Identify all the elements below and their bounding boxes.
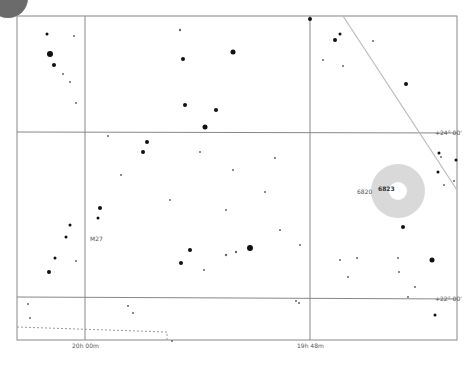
- star: [69, 81, 71, 83]
- star: [397, 257, 399, 259]
- star: [339, 259, 341, 261]
- object-label-6820[interactable]: 6820: [357, 188, 372, 195]
- star: [407, 296, 409, 298]
- star: [438, 152, 441, 155]
- ra-label-20h00m: 20h 00m: [72, 342, 99, 349]
- star: [264, 191, 266, 193]
- star: [97, 217, 100, 220]
- star: [225, 209, 227, 211]
- star: [46, 33, 49, 36]
- star: [437, 171, 440, 174]
- star: [65, 236, 68, 239]
- star: [120, 174, 122, 176]
- star: [132, 312, 134, 314]
- star: [279, 229, 281, 231]
- star: [203, 269, 205, 271]
- star: [171, 340, 173, 342]
- star: [47, 270, 51, 274]
- star: [372, 40, 374, 42]
- star: [298, 302, 300, 304]
- star: [434, 314, 437, 317]
- star: [54, 257, 57, 260]
- star: [274, 157, 276, 159]
- star: [183, 103, 187, 107]
- star: [27, 303, 29, 305]
- ra-label-19h48m: 19h 48m: [297, 342, 324, 349]
- dec-grid-line-22: [17, 297, 457, 299]
- star: [247, 245, 253, 251]
- star: [107, 135, 109, 137]
- star: [73, 35, 75, 37]
- star: [188, 248, 192, 252]
- dashed-boundary: [17, 327, 167, 340]
- star: [455, 159, 458, 162]
- star: [333, 38, 337, 42]
- constellation-boundary: [343, 16, 457, 190]
- star: [214, 108, 218, 112]
- star: [356, 257, 358, 259]
- star: [98, 206, 102, 210]
- star: [347, 276, 349, 278]
- star: [225, 254, 227, 256]
- star: [75, 260, 77, 262]
- star: [440, 156, 442, 158]
- star: [295, 300, 297, 302]
- star: [169, 199, 171, 201]
- star: [414, 286, 416, 288]
- dec-label-22: +22° 00': [435, 295, 462, 302]
- star: [29, 317, 31, 319]
- star: [430, 258, 435, 263]
- star: [145, 140, 149, 144]
- star: [322, 59, 324, 61]
- star: [232, 169, 234, 171]
- star: [141, 150, 145, 154]
- star: [401, 225, 405, 229]
- star: [127, 305, 129, 307]
- star-chart[interactable]: [0, 0, 473, 366]
- star: [342, 65, 344, 67]
- star: [179, 29, 181, 31]
- object-label-m27[interactable]: M27: [90, 235, 103, 242]
- star: [199, 151, 201, 153]
- star: [299, 244, 301, 246]
- star: [47, 51, 53, 57]
- star: [181, 57, 185, 61]
- star: [398, 271, 400, 273]
- object-label-6823[interactable]: 6823: [378, 185, 395, 192]
- star: [203, 125, 208, 130]
- star: [231, 50, 236, 55]
- star: [404, 82, 408, 86]
- star: [339, 33, 342, 36]
- dec-label-24: +24° 00': [435, 129, 462, 136]
- dec-grid-line-24: [17, 132, 457, 133]
- star: [443, 184, 445, 186]
- star: [179, 261, 183, 265]
- star: [235, 251, 237, 253]
- star: [69, 224, 72, 227]
- star: [52, 63, 56, 67]
- star: [62, 73, 64, 75]
- star: [75, 102, 77, 104]
- star: [453, 180, 455, 182]
- star: [308, 17, 312, 21]
